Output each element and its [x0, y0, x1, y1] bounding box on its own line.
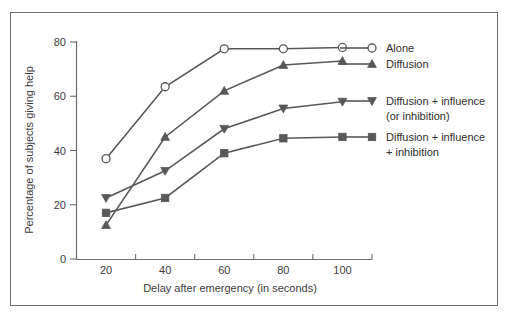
- data-point-open-circle-marker: [161, 83, 169, 91]
- data-point-open-circle-marker: [220, 45, 228, 53]
- legend-label: (or inhibition): [386, 110, 450, 122]
- data-series-group: [102, 43, 347, 228]
- data-point-open-circle-marker: [279, 45, 287, 53]
- data-point-square-marker: [221, 150, 228, 157]
- y-tick-label: 60: [54, 90, 66, 102]
- legend-entry-2[interactable]: Diffusion + influence(or inhibition): [340, 95, 485, 122]
- legend-entry-1[interactable]: Diffusion: [340, 58, 429, 70]
- y-axis-title: Percentage of subjects giving help: [23, 66, 35, 234]
- axes: 020406080 20406080100: [54, 36, 372, 276]
- x-tick-labels: 20406080100: [100, 264, 352, 276]
- x-tick-label: 60: [218, 264, 230, 276]
- data-point-square-marker: [280, 135, 287, 142]
- x-tick-marks: [77, 254, 373, 260]
- data-point-down-triangle-marker: [220, 125, 229, 133]
- series-1: [102, 57, 347, 229]
- y-tick-marks: [70, 42, 77, 259]
- line-chart: 020406080 20406080100 AloneDiffusionDiff…: [0, 0, 512, 329]
- y-tick-label: 80: [54, 36, 66, 48]
- data-point-down-triangle-marker: [102, 195, 111, 203]
- series-0: [102, 43, 346, 162]
- chart-figure: 020406080 20406080100 AloneDiffusionDiff…: [0, 0, 512, 329]
- data-point-square-marker: [161, 194, 168, 201]
- x-axis-title: Delay after emergency (in seconds): [143, 282, 317, 294]
- series-line: [106, 137, 342, 213]
- x-tick-label: 80: [277, 264, 289, 276]
- data-point-down-triangle-marker: [161, 167, 170, 175]
- chart-legend: AloneDiffusionDiffusion + influence(or i…: [340, 42, 485, 158]
- x-tick-label: 40: [159, 264, 171, 276]
- y-tick-labels: 020406080: [54, 36, 66, 265]
- legend-label: + inhibition: [386, 146, 439, 158]
- x-tick-label: 20: [100, 264, 112, 276]
- data-point-open-circle-marker: [102, 155, 110, 163]
- data-point-open-circle-marker: [368, 44, 376, 52]
- legend-label: Diffusion + influence: [386, 95, 485, 107]
- legend-label: Diffusion: [386, 58, 429, 70]
- x-tick-label: 100: [333, 264, 351, 276]
- legend-label: Alone: [386, 42, 414, 54]
- legend-label: Diffusion + influence: [386, 131, 485, 143]
- series-line: [106, 61, 342, 225]
- y-tick-label: 0: [60, 253, 66, 265]
- y-tick-label: 20: [54, 199, 66, 211]
- data-point-square-marker: [102, 209, 109, 216]
- legend-entry-0[interactable]: Alone: [340, 42, 414, 54]
- data-point-square-marker: [368, 133, 375, 140]
- y-tick-label: 40: [54, 145, 66, 157]
- legend-entry-3[interactable]: Diffusion + influence+ inhibition: [340, 131, 485, 158]
